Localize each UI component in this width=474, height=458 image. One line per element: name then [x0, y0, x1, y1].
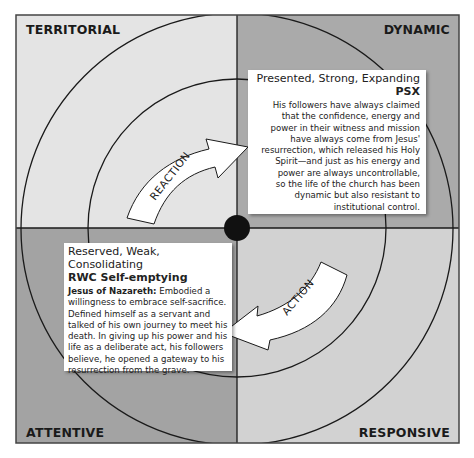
rwc-line: resurrection from the grave.	[68, 365, 228, 376]
rwc-line: willingness to embrace self-sacrifice.	[68, 297, 228, 308]
psx-line: power are always uncontrollable,	[252, 168, 420, 179]
psx-line: dynamic but also resistant to	[252, 190, 420, 201]
label-dynamic: DYNAMIC	[384, 22, 450, 37]
rwc-body: Jesus of Nazareth: Embodied a willingnes…	[68, 286, 228, 376]
psx-line: resurrection, which released his Holy	[252, 145, 420, 156]
label-responsive: RESPONSIVE	[359, 425, 450, 440]
psx-line: that the confidence, energy and	[252, 111, 420, 122]
rwc-lead: Jesus of Nazareth:	[68, 286, 157, 296]
psx-line: have always come from Jesus'	[252, 134, 420, 145]
psx-title: Presented, Strong, Expanding	[252, 72, 420, 85]
rwc-line: death. In giving up his power and his	[68, 331, 228, 342]
psx-line: power in their witness and mission	[252, 123, 420, 134]
rwc-text-box: Reserved, Weak, Consolidating RWC Self-e…	[64, 243, 232, 371]
rwc-subtitle: RWC Self-emptying	[68, 271, 228, 284]
label-attentive: ATTENTIVE	[26, 425, 104, 440]
label-territorial: TERRITORIAL	[26, 22, 120, 37]
psx-line: His followers have always claimed	[252, 100, 420, 111]
rwc-line: Defined himself as a servant and	[68, 309, 228, 320]
rwc-line: Jesus of Nazareth: Embodied a	[68, 286, 228, 297]
psx-body: His followers have always claimed that t…	[252, 100, 420, 213]
psx-subtitle: PSX	[252, 85, 420, 98]
center-dot	[224, 215, 250, 241]
psx-text-box: Presented, Strong, Expanding PSX His fol…	[248, 70, 426, 214]
quadrant-diagram: REACTION ACTION	[0, 0, 474, 458]
psx-line: so the life of the church has been	[252, 179, 420, 190]
psx-line: institutional control.	[252, 202, 420, 213]
psx-line: Spirit—and just as his energy and	[252, 156, 420, 167]
rwc-line-text: Embodied a	[157, 286, 211, 296]
rwc-title: Reserved, Weak, Consolidating	[68, 245, 228, 271]
rwc-line: talked of his own journey to meet his	[68, 320, 228, 331]
rwc-line: believe, he opened a gateway to his	[68, 354, 228, 365]
rwc-line: life as a deliberate act, his followers	[68, 342, 228, 353]
